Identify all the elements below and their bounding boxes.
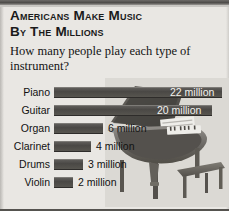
infographic-panel: Americans Make Music By the Millions How… bbox=[0, 0, 229, 215]
category-label-drums: Drums bbox=[0, 158, 50, 171]
category-label-organ: Organ bbox=[0, 122, 50, 135]
bar-clarinet bbox=[54, 141, 91, 152]
value-label-guitar: 20 million bbox=[157, 104, 201, 117]
bar-organ bbox=[54, 123, 103, 134]
bar-violin bbox=[54, 177, 73, 188]
chart-row-drums: Drums 3 million bbox=[0, 158, 229, 171]
value-label-clarinet: 4 million bbox=[96, 140, 135, 153]
chart-row-clarinet: Clarinet 4 million bbox=[0, 140, 229, 153]
value-label-violin: 2 million bbox=[78, 176, 117, 189]
chart-row-organ: Organ 6 million bbox=[0, 122, 229, 135]
chart-row-guitar: Guitar 20 million bbox=[0, 104, 229, 117]
category-label-violin: Violin bbox=[0, 176, 50, 189]
bottom-white-strip bbox=[0, 211, 229, 215]
headline-line-2: By the Millions bbox=[10, 24, 215, 40]
value-label-piano: 22 million bbox=[170, 86, 214, 99]
bar-chart: Piano 22 million Guitar 20 million Organ… bbox=[0, 86, 229, 198]
value-label-drums: 3 million bbox=[88, 158, 127, 171]
chart-row-violin: Violin 2 million bbox=[0, 176, 229, 189]
category-label-piano: Piano bbox=[0, 86, 50, 99]
category-label-guitar: Guitar bbox=[0, 104, 50, 117]
headline-line-1: Americans Make Music bbox=[10, 8, 215, 24]
top-divider-shadow bbox=[0, 5, 229, 7]
subtitle-question: How many people play each type of instru… bbox=[10, 44, 220, 73]
category-label-clarinet: Clarinet bbox=[0, 140, 50, 153]
chart-row-piano: Piano 22 million bbox=[0, 86, 229, 99]
value-label-organ: 6 million bbox=[108, 122, 147, 135]
headline: Americans Make Music By the Millions bbox=[10, 8, 215, 40]
bar-drums bbox=[54, 159, 83, 170]
